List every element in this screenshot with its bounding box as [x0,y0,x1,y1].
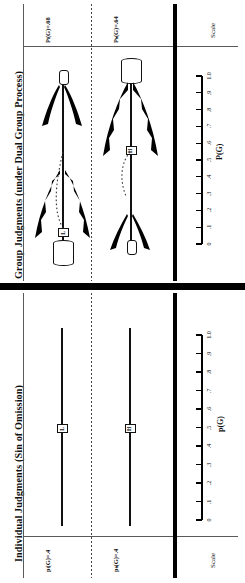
tick-individual-6 [196,408,202,409]
tick-label-group-4: .4 [205,174,212,179]
dotted-curve-group-high [112,150,134,200]
tick-label-individual-4: .4 [205,444,212,449]
row-label-ind-low: pₗ(G)=.4 [44,550,52,572]
tick-individual-8 [196,371,202,372]
dotted-curve-group-low [47,150,71,232]
axis-title-individual: p(G) [216,416,225,432]
tick-group-1 [196,227,202,228]
panel-separator [0,283,245,290]
tick-label-group-1: .1 [205,225,212,230]
tick-group-4 [196,176,202,177]
tick-group-5 [196,159,202,160]
axis-title-group: P(G) [215,144,224,160]
label-divider-group [23,46,238,47]
row-label-group-low: Pₗ(G)=.08 [44,17,52,43]
ruler-individual: 0.1.2.3.4.5.6.7.8.91.0 [201,335,203,520]
tick-individual-5 [196,427,202,428]
tick-label-individual-2: .2 [205,481,212,486]
tick-individual-9 [196,353,202,354]
tick-label-individual-8: .8 [205,370,212,375]
tick-label-individual-3: .3 [205,462,212,467]
marker-label-ind-high: H [128,426,134,430]
scale-divider-group [173,4,177,281]
tick-individual-0 [196,519,202,520]
row-label-ind-high: pₕ(G)=.4 [112,549,120,572]
tick-group-2 [196,210,202,211]
tick-label-group-0: 0 [205,242,212,245]
marker-ind-high: H [125,424,136,433]
tick-group-10 [196,75,202,76]
tick-group-8 [196,109,202,110]
tick-label-group-5: .5 [205,158,212,163]
marker-ind-low: L [57,424,68,433]
tick-individual-2 [196,482,202,483]
tick-label-group-2: .2 [205,208,212,213]
tick-label-group-10: 1.0 [205,72,212,80]
tick-label-group-9: .9 [205,90,212,95]
tick-label-group-6: .6 [205,141,212,146]
scale-word-group: Scale [209,23,217,38]
tick-group-7 [196,126,202,127]
tick-label-group-7: .7 [205,124,212,129]
scale-word-individual: Scale [209,553,217,568]
tick-label-group-8: .8 [205,107,212,112]
figure-root: Group Judgments (under Dual Group Proces… [0,0,245,583]
tick-group-9 [196,92,202,93]
tick-individual-1 [196,501,202,502]
tick-individual-7 [196,390,202,391]
row-label-group-high: Pₕ(G)=.64 [112,16,120,43]
tick-label-individual-7: .7 [205,388,212,393]
tick-group-3 [196,193,202,194]
ruler-group: 0.1.2.3.4.5.6.7.8.91.0 [201,76,203,244]
tick-label-individual-5: .5 [205,425,212,430]
tick-label-individual-6: .6 [205,407,212,412]
tick-label-individual-9: .9 [205,351,212,356]
tick-individual-4 [196,445,202,446]
tick-label-individual-1: .1 [205,499,212,504]
tick-individual-10 [196,334,202,335]
tick-individual-3 [196,464,202,465]
label-divider-individual [23,536,238,537]
scale-divider-individual [173,293,177,578]
tick-group-0 [196,243,202,244]
tick-group-6 [196,143,202,144]
row-divider-individual [91,293,92,578]
marker-label-ind-low: L [60,427,66,431]
tick-label-individual-0: 0 [205,518,212,521]
tick-label-group-3: .3 [205,191,212,196]
tick-label-individual-10: 1.0 [205,331,212,339]
